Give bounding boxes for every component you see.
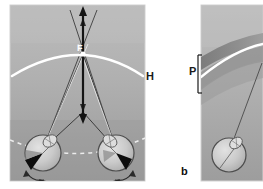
panel-a-tone-band-top (10, 5, 145, 43)
label-panel-b: b (181, 166, 188, 177)
figure-container: H P b F (0, 0, 263, 189)
label-panum-P: P (189, 66, 196, 77)
label-fixation-F: F (77, 44, 83, 53)
figure-svg (0, 0, 263, 189)
panel-b (201, 5, 263, 181)
label-horopter-H: H (146, 71, 154, 82)
panel-a (10, 5, 145, 185)
